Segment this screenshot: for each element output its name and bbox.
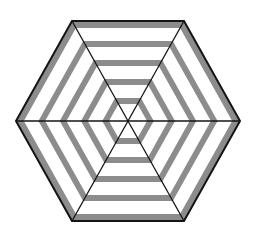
hexagon-figure [0,0,264,240]
hexagon-diagram [0,0,264,240]
